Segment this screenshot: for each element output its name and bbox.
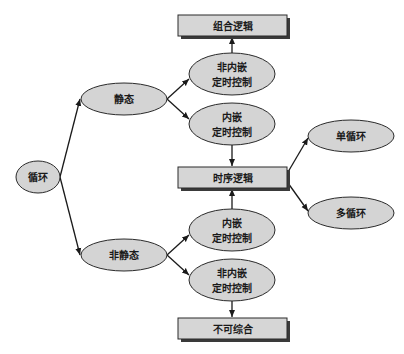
node-label: 非内嵌: [217, 61, 247, 73]
arrow-nonstatic-to-n_nonembed: [167, 255, 189, 275]
ellipse-shape: [189, 103, 275, 145]
node-label: 不可综合: [213, 323, 254, 335]
ellipse-shape: [189, 53, 275, 95]
node-label: 定时控制: [212, 232, 252, 244]
node-loop: 循环: [16, 161, 60, 193]
node-label: 定时控制: [212, 282, 252, 294]
ellipse-shape: [189, 209, 275, 251]
loop-synthesis-diagram: 循环静态非静态组合逻辑非内嵌定时控制内嵌定时控制时序逻辑单循环多循环内嵌定时控制…: [0, 0, 404, 354]
arrow-static-to-s_embed: [167, 99, 189, 119]
arrow-nonstatic-to-n_embed: [167, 235, 189, 255]
node-label: 定时控制: [212, 126, 252, 138]
node-label: 单循环: [336, 130, 366, 142]
arrow-seq-to-multi: [288, 183, 308, 211]
node-seq: 时序逻辑: [178, 167, 290, 191]
node-comb: 组合逻辑: [178, 15, 290, 39]
node-static: 静态: [81, 83, 167, 115]
node-s-embed: 内嵌定时控制: [189, 103, 275, 145]
node-nonstatic: 非静态: [81, 239, 167, 271]
ellipse-shape: [189, 259, 275, 301]
node-label: 内嵌: [222, 217, 242, 229]
node-n-nonembed: 非内嵌定时控制: [189, 259, 275, 301]
node-label: 多循环: [336, 207, 366, 219]
arrow-seq-to-single: [288, 138, 308, 172]
node-multi: 多循环: [308, 197, 394, 229]
node-label: 定时控制: [212, 76, 252, 88]
node-unsynth: 不可综合: [178, 318, 290, 342]
node-label: 组合逻辑: [213, 20, 253, 32]
node-label: 时序逻辑: [213, 172, 253, 184]
node-label: 非内嵌: [217, 267, 247, 279]
arrow-loop-to-static: [60, 99, 80, 177]
node-label: 静态: [114, 93, 134, 105]
node-s-nonembed: 非内嵌定时控制: [189, 53, 275, 95]
arrow-loop-to-nonstatic: [60, 177, 80, 255]
node-single: 单循环: [308, 120, 394, 152]
arrow-static-to-s_nonembed: [167, 79, 189, 99]
node-label: 内嵌: [222, 111, 242, 123]
node-label: 循环: [28, 171, 48, 183]
node-label: 非静态: [109, 249, 139, 261]
node-n-embed: 内嵌定时控制: [189, 209, 275, 251]
